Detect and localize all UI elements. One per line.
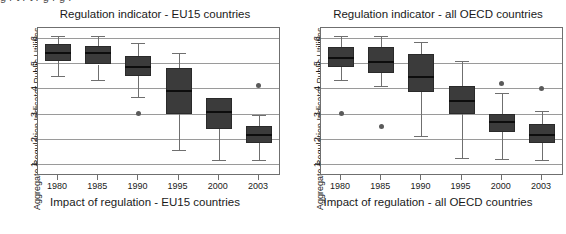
whisker-cap-lower bbox=[414, 136, 428, 137]
whisker-lower bbox=[58, 61, 59, 76]
whisker-lower bbox=[502, 132, 503, 158]
plot-area-oecd bbox=[320, 27, 563, 175]
x-tick-mark bbox=[501, 175, 502, 180]
whisker-lower bbox=[98, 65, 99, 80]
whisker-cap-lower bbox=[91, 80, 105, 81]
x-tick-mark bbox=[97, 175, 98, 180]
whisker-cap-upper bbox=[131, 43, 145, 44]
boxplot-2000 bbox=[489, 28, 515, 174]
whisker-cap-lower bbox=[131, 97, 145, 98]
panel-eu15: Regulation indicator - EU15 countries Ag… bbox=[0, 0, 283, 234]
y-tick-label: 4 bbox=[312, 86, 322, 102]
plot-area-eu15 bbox=[37, 27, 280, 175]
y-tick-label: 2 bbox=[312, 137, 322, 153]
x-tick-mark bbox=[137, 175, 138, 180]
gridline bbox=[321, 38, 562, 39]
x-tick-label: 1995 bbox=[441, 181, 481, 191]
x-tick-label: 2003 bbox=[238, 181, 278, 191]
figure-root: g r t r t r g r g r Regulation indicator… bbox=[0, 0, 566, 234]
boxplot-1995 bbox=[166, 28, 192, 174]
boxplot-1990 bbox=[125, 28, 151, 174]
boxplot-1995 bbox=[449, 28, 475, 174]
whisker-upper bbox=[259, 115, 260, 126]
y-tick-label: 2 bbox=[29, 137, 39, 153]
whisker-cap-lower bbox=[455, 158, 469, 159]
y-tick-label: 5 bbox=[312, 61, 322, 77]
whisker-cap-upper bbox=[495, 93, 509, 94]
outlier-point bbox=[256, 83, 261, 88]
boxplot-1990 bbox=[408, 28, 434, 174]
whisker-lower bbox=[462, 114, 463, 158]
outlier-point bbox=[499, 81, 504, 86]
whisker-lower bbox=[341, 67, 342, 80]
gridline bbox=[38, 139, 279, 140]
boxplot-2003 bbox=[246, 28, 272, 174]
x-tick-label: 2003 bbox=[521, 181, 561, 191]
whisker-lower bbox=[179, 114, 180, 151]
boxplot-1985 bbox=[85, 28, 111, 174]
x-tick-mark bbox=[380, 175, 381, 180]
whisker-cap-upper bbox=[535, 111, 549, 112]
whisker-cap-upper bbox=[374, 36, 388, 37]
whisker-upper bbox=[421, 42, 422, 55]
whisker-cap-upper bbox=[51, 36, 65, 37]
outlier-point bbox=[339, 111, 344, 116]
whisker-upper bbox=[381, 36, 382, 47]
y-axis-title-wrap-oecd: Aggregate Regulation Indicator Public Ut… bbox=[291, 20, 305, 180]
x-tick-label: 1985 bbox=[360, 181, 400, 191]
whisker-lower bbox=[542, 143, 543, 161]
x-tick-mark bbox=[461, 175, 462, 180]
boxplot-2003 bbox=[529, 28, 555, 174]
box-iqr bbox=[206, 98, 232, 128]
whisker-cap-lower bbox=[334, 80, 348, 81]
whisker-cap-lower bbox=[374, 86, 388, 87]
x-tick-label: 1995 bbox=[158, 181, 198, 191]
whisker-cap-lower bbox=[495, 159, 509, 160]
whisker-upper bbox=[341, 36, 342, 47]
gridline bbox=[321, 63, 562, 64]
x-tick-label: 1980 bbox=[320, 181, 360, 191]
whisker-upper bbox=[98, 36, 99, 46]
median-line bbox=[489, 121, 515, 123]
median-line bbox=[449, 100, 475, 102]
median-line bbox=[206, 111, 232, 113]
box-iqr bbox=[408, 54, 434, 92]
x-tick-mark bbox=[178, 175, 179, 180]
median-line bbox=[368, 61, 394, 63]
median-line bbox=[328, 57, 354, 59]
whisker-cap-lower bbox=[252, 160, 266, 161]
median-line bbox=[408, 76, 434, 78]
x-tick-mark bbox=[218, 175, 219, 180]
median-line bbox=[166, 90, 192, 92]
whisker-upper bbox=[58, 36, 59, 45]
y-tick-label: 6 bbox=[312, 36, 322, 52]
outlier-point bbox=[136, 111, 141, 116]
x-tick-mark bbox=[420, 175, 421, 180]
whisker-upper bbox=[462, 61, 463, 86]
x-tick-mark bbox=[57, 175, 58, 180]
whisker-cap-upper bbox=[455, 61, 469, 62]
boxplot-1985 bbox=[368, 28, 394, 174]
boxplot-1980 bbox=[45, 28, 71, 174]
whisker-cap-upper bbox=[252, 115, 266, 116]
box-iqr bbox=[85, 46, 111, 65]
whisker-upper bbox=[542, 111, 543, 124]
y-tick-label: 4 bbox=[29, 86, 39, 102]
y-tick-label: 6 bbox=[29, 36, 39, 52]
gridline bbox=[38, 38, 279, 39]
median-line bbox=[246, 134, 272, 136]
whisker-lower bbox=[421, 92, 422, 136]
gridline bbox=[38, 114, 279, 115]
gridline bbox=[321, 88, 562, 89]
x-tick-mark bbox=[258, 175, 259, 180]
whisker-cap-upper bbox=[414, 42, 428, 43]
boxplot-2000 bbox=[206, 28, 232, 174]
whisker-upper bbox=[179, 53, 180, 68]
chart-title-oecd: Regulation indicator - all OECD countrie… bbox=[313, 8, 563, 20]
x-tick-mark bbox=[541, 175, 542, 180]
x-axis-title-eu15: Impact of regulation - EU15 countries bbox=[20, 196, 270, 208]
x-tick-label: 1990 bbox=[117, 181, 157, 191]
median-line bbox=[125, 66, 151, 68]
y-tick-label: 3 bbox=[29, 112, 39, 128]
x-axis-title-oecd: Impact of regulation - all OECD countrie… bbox=[303, 196, 553, 208]
